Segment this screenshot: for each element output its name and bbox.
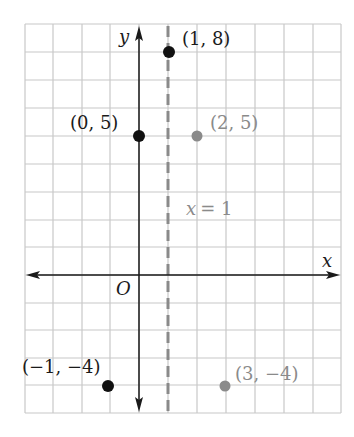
origin-label: O	[116, 278, 131, 299]
x-axis-label: x	[322, 250, 332, 271]
coordinate-plane: y x O (1, 8) (0, 5) (2, 5) (−1, −4) (3, …	[0, 0, 354, 437]
point-label-neg1-neg4: (−1, −4)	[22, 356, 101, 377]
x-axis	[26, 271, 340, 279]
line-label-eq: = 1	[200, 198, 232, 219]
y-axis	[135, 26, 143, 412]
point-2-5	[192, 131, 203, 142]
point-1-8	[163, 46, 175, 58]
grid	[25, 24, 341, 413]
y-axis-label: y	[118, 26, 130, 47]
line-label-x-equals-1: x= 1	[186, 198, 232, 219]
point-label-1-8: (1, 8)	[182, 28, 230, 49]
point-label-0-5: (0, 5)	[70, 112, 118, 133]
point-label-3-neg4: (3, −4)	[235, 363, 298, 384]
point-label-2-5: (2, 5)	[210, 112, 258, 133]
point-3-neg4	[220, 381, 231, 392]
point-0-5	[133, 130, 145, 142]
point-neg1-neg4	[102, 380, 114, 392]
line-label-var: x	[186, 198, 196, 219]
